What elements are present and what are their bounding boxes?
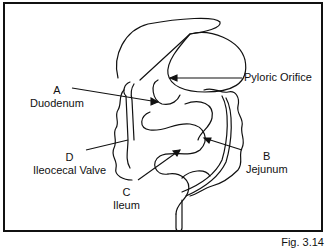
label-b-letter: B [246,150,288,163]
label-c-letter: C [113,186,140,199]
label-duodenum: A Duodenum [30,84,84,110]
label-ileocecal-valve: D Ileocecal Valve [33,151,106,177]
label-a-letter: A [30,84,84,97]
label-d-letter: D [33,151,106,164]
label-d-name: Ileocecal Valve [33,164,106,177]
figure-number: Fig. 3.14 [281,236,324,248]
label-jejunum: B Jejunum [246,150,288,176]
label-pyloric-name: Pyloric Orifice [244,71,312,84]
label-c-name: Ileum [113,199,140,212]
label-b-name: Jejunum [246,163,288,176]
label-a-name: Duodenum [30,97,84,110]
label-pyloric-orifice: Pyloric Orifice [244,71,312,84]
label-ileum: C Ileum [113,186,140,212]
digestive-tract-illustration [0,0,328,248]
